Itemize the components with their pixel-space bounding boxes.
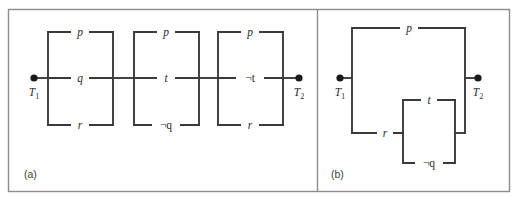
- switching-network-figure: p q r p t ¬q: [0, 0, 518, 206]
- panel-b-label-r: r: [383, 127, 388, 139]
- block-1-label-r: r: [78, 119, 83, 131]
- block-1-label-q: q: [77, 72, 83, 85]
- block-1-label-p: p: [76, 26, 83, 39]
- panel-a: p q r p t ¬q: [24, 25, 304, 181]
- panel-a-terminal-t2-label: T2: [294, 86, 304, 101]
- block-3-label-p: p: [246, 26, 253, 39]
- panel-a-terminal-t2-dot: [295, 74, 302, 81]
- panel-b-caption: (b): [331, 168, 344, 180]
- block-3-label-neg-t: ¬t: [245, 72, 255, 84]
- panel-b-terminal-t2-dot: [474, 74, 481, 81]
- panel-b-terminal-t2-label: T2: [473, 86, 483, 101]
- panel-a-block-1: p q r: [48, 25, 113, 133]
- figure-container: p q r p t ¬q: [0, 0, 518, 206]
- panel-a-caption: (a): [24, 168, 37, 180]
- panel-a-terminal-t1-label: T1: [29, 86, 39, 101]
- block-2-label-neg-q: ¬q: [160, 119, 172, 132]
- block-2-label-p: p: [162, 26, 169, 39]
- panel-b: p r t ¬q T1 T2 (b): [331, 21, 483, 181]
- block-3-label-r: r: [248, 119, 253, 131]
- panel-b-terminal-t1-dot: [336, 74, 343, 81]
- panel-a-block-2: p t ¬q: [134, 25, 199, 133]
- panel-b-terminal-t1-label: T1: [335, 86, 345, 101]
- panel-b-label-neg-q: ¬q: [423, 157, 435, 170]
- panel-a-block-3: p ¬t r: [218, 25, 283, 133]
- panel-a-terminal-t1-dot: [30, 74, 37, 81]
- panel-b-label-p: p: [405, 22, 412, 35]
